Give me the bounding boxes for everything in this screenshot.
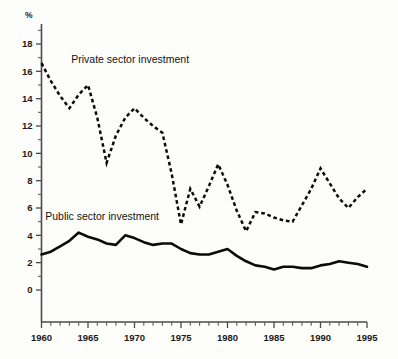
x-axis-tick-label: 1995 [356, 332, 378, 343]
y-axis-tick-label: 12 [22, 120, 33, 131]
y-axis-unit-label: % [25, 10, 33, 20]
y-axis-tick-label: 4 [27, 230, 33, 241]
x-axis-tick-label: 1980 [217, 332, 238, 343]
x-axis-tick-label: 1965 [77, 332, 99, 343]
series-label-private: Private sector investment [71, 53, 189, 65]
y-axis-tick-label: 14 [22, 93, 33, 104]
y-axis-tick-label: 16 [22, 66, 33, 77]
y-axis-tick-label: 10 [22, 148, 33, 159]
x-axis-tick-label: 1970 [124, 332, 145, 343]
y-axis-tick-label: 0 [27, 284, 32, 295]
series-line-private [42, 63, 368, 231]
series-label-public: Public sector investment [45, 210, 159, 222]
x-axis-tick-label: 1990 [310, 332, 331, 343]
x-axis-tick-label: 1985 [263, 332, 285, 343]
chart-plot-area: 024681012141618%196019651970197519801985… [0, 0, 398, 359]
y-axis-tick-label: 6 [27, 202, 32, 213]
x-axis-tick-label: 1975 [170, 332, 192, 343]
series-line-public [42, 233, 368, 270]
y-axis-tick-label: 2 [27, 257, 32, 268]
x-axis-tick-label: 1960 [31, 332, 52, 343]
y-axis-tick-label: 8 [27, 175, 32, 186]
y-axis-tick-label: 18 [22, 38, 33, 49]
investment-line-chart: 024681012141618%196019651970197519801985… [0, 0, 398, 359]
